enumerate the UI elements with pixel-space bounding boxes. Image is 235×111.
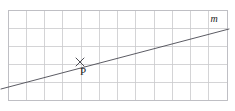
geometry-figure: m P (0, 0, 235, 111)
figure-canvas: m P (0, 0, 235, 111)
point-label-p: P (80, 65, 86, 77)
line-label-m: m (210, 13, 217, 24)
